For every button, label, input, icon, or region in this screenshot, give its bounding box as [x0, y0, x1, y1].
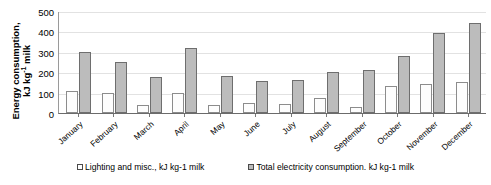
x-axis-label-cell: May	[202, 118, 238, 156]
bar	[456, 82, 468, 113]
x-axis-category-label: April	[172, 119, 191, 138]
bar	[79, 52, 91, 113]
bar	[420, 84, 432, 113]
x-axis-category-labels: JanuaryFebruaryMarchAprilMayJuneJulyAugu…	[58, 118, 486, 156]
x-axis-label-cell: April	[167, 118, 203, 156]
bar-group	[203, 12, 238, 113]
bar	[398, 56, 410, 113]
bar-group	[274, 12, 309, 113]
y-axis-tick-labels: 5004003002001000	[20, 12, 54, 114]
x-axis-label-cell: September	[344, 118, 380, 156]
bar	[137, 105, 149, 113]
legend-item-label: Total electricity consumption. kJ kg-1 m…	[256, 162, 414, 172]
plot-area-wrapper	[58, 12, 486, 114]
bar	[292, 80, 304, 113]
x-axis-label-cell: July	[273, 118, 309, 156]
x-axis-category-label: August	[307, 119, 333, 144]
x-axis-label-cell: June	[238, 118, 274, 156]
y-axis-tick-label: 200	[38, 68, 54, 79]
bar-group	[415, 12, 450, 113]
bar	[279, 104, 291, 113]
legend-item[interactable]: Total electricity consumption. kJ kg-1 m…	[248, 162, 414, 172]
y-axis-tick-label: 500	[38, 7, 54, 18]
bar	[102, 93, 114, 113]
legend-swatch-icon	[248, 164, 254, 170]
bar	[185, 48, 197, 113]
bar-groups	[59, 12, 486, 113]
chart-legend: Lighting and misc., kJ kg-1 milkTotal el…	[0, 162, 491, 172]
y-axis-tick-label: 300	[38, 47, 54, 58]
bar	[66, 91, 78, 113]
y-axis-tick-label: 100	[38, 88, 54, 99]
bar	[314, 98, 326, 113]
x-axis-label-cell: February	[96, 118, 132, 156]
bar-group	[309, 12, 344, 113]
bar-group	[451, 12, 486, 113]
x-axis-label-cell: March	[131, 118, 167, 156]
bar-group	[96, 12, 131, 113]
x-axis-category-label: May	[208, 119, 226, 137]
bar	[350, 107, 362, 113]
x-axis-label-cell: December	[451, 118, 487, 156]
bar-group	[167, 12, 202, 113]
bar	[208, 105, 220, 113]
legend-item-label: Lighting and misc., kJ kg-1 milk	[85, 162, 204, 172]
bar-group	[61, 12, 96, 113]
bar-group	[344, 12, 379, 113]
bar	[115, 62, 127, 113]
x-axis-category-label: March	[131, 119, 155, 142]
x-axis-label-cell: January	[60, 118, 96, 156]
x-axis-category-label: June	[242, 119, 262, 139]
bar-group	[132, 12, 167, 113]
bar-group	[380, 12, 415, 113]
y-axis-tick-label: 0	[49, 109, 54, 120]
bar	[469, 23, 481, 113]
bar	[433, 33, 445, 113]
bar	[172, 93, 184, 113]
bar	[256, 81, 268, 113]
bar	[221, 76, 233, 113]
bar	[363, 70, 375, 113]
legend-item[interactable]: Lighting and misc., kJ kg-1 milk	[77, 162, 204, 172]
x-axis-category-label: October	[375, 119, 404, 146]
bar	[243, 103, 255, 113]
bar	[150, 77, 162, 113]
x-axis-category-label: July	[280, 119, 298, 136]
plot-area	[58, 12, 486, 114]
bar	[327, 72, 339, 113]
bar	[385, 86, 397, 113]
y-axis-tick-label: 400	[38, 27, 54, 38]
x-axis-category-label: January	[56, 119, 85, 146]
bar-group	[238, 12, 273, 113]
bar-chart: Energy consumption, kJ kg-1 milk 5004003…	[0, 0, 491, 185]
legend-swatch-icon	[77, 164, 83, 170]
